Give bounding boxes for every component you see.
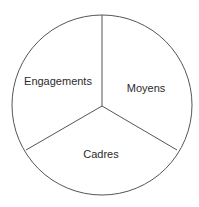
segmented-circle-diagram: Engagements Moyens Cadres [0, 0, 199, 207]
segment-label-moyens: Moyens [127, 82, 166, 94]
segment-label-cadres: Cadres [83, 148, 119, 160]
segment-label-engagements: Engagements [24, 75, 92, 87]
